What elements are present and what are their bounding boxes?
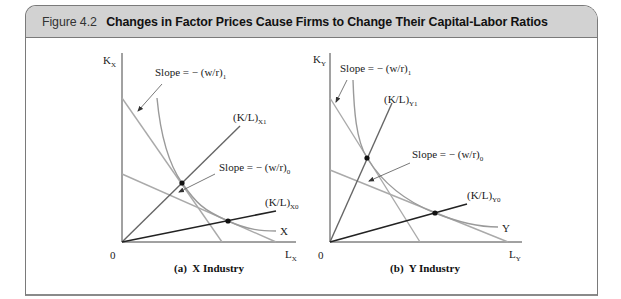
slope-0-label: Slope = − (w/r)0: [412, 148, 484, 163]
tangency-point-1: [364, 155, 369, 160]
ray-kl-y1: [330, 103, 392, 242]
diagram: KX Slope = − (w/r)1 (K/L)X1 Slope = − (w…: [0, 0, 621, 299]
slope-1-arrow: [336, 80, 347, 102]
x-axis-label: LX: [285, 248, 297, 263]
ray-0-label: (K/L)X0: [265, 196, 299, 211]
tangency-point-0: [225, 218, 230, 223]
origin-label: 0: [318, 249, 324, 261]
x-axis-label: LY: [509, 248, 521, 263]
slope-1-label: Slope = − (w/r)1: [340, 62, 412, 77]
y-axis-label: KY: [313, 53, 326, 68]
panel-x-industry: KX Slope = − (w/r)1 (K/L)X1 Slope = − (w…: [103, 53, 299, 275]
isocost-line-0: [122, 174, 276, 242]
tangency-point-1: [179, 180, 184, 185]
ray-1-label: (K/L)X1: [233, 111, 267, 126]
isoquant-label: Y: [502, 222, 510, 234]
panel-caption: (a) X Industry: [174, 262, 244, 275]
isocost-line-1: [122, 98, 222, 242]
ray-kl-x0: [122, 211, 276, 242]
y-axis-label: KX: [103, 54, 116, 69]
ray-0-label: (K/L)Y0: [467, 189, 501, 204]
isoquant-label: X: [280, 225, 288, 237]
tangency-point-0: [432, 210, 437, 215]
panel-caption: (b) Y Industry: [390, 262, 460, 275]
slope-0-arrow: [369, 163, 410, 181]
panel-y-industry: KY Slope = − (w/r)1 (K/L)Y1 Slope = − (w…: [313, 53, 522, 275]
ray-1-label: (K/L)Y1: [384, 93, 418, 108]
ray-kl-y0: [330, 204, 467, 242]
slope-1-label: Slope = − (w/r)1: [155, 66, 227, 81]
origin-label: 0: [110, 249, 116, 261]
slope-0-label: Slope = − (w/r)0: [219, 161, 291, 176]
